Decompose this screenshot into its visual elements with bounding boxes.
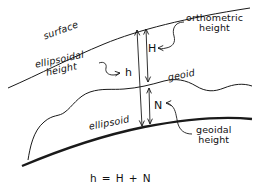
symbol-h: h <box>125 67 132 79</box>
orthometric-height-label: orthometricheight <box>186 13 243 33</box>
geodesy-height-diagram: surface ellipsoidalheight geoid ellipsoi… <box>0 0 257 194</box>
geoidal-height-label: geoidalheight <box>196 125 232 145</box>
geoidal-height-line2: height <box>198 134 229 145</box>
H-dimension-arrow <box>144 29 151 82</box>
symbol-H-uppercase: H <box>148 43 156 55</box>
orthometric-height-leader <box>158 22 184 51</box>
N-dimension-arrow <box>147 88 153 124</box>
orthometric-height-line2: height <box>199 22 230 33</box>
geoidal-height-leader <box>166 101 192 134</box>
height-formula: h = H + N <box>90 173 151 184</box>
symbol-N: N <box>154 100 162 112</box>
ellipsoidal-height-leader <box>99 62 120 76</box>
h-dimension-arrow <box>135 30 145 126</box>
